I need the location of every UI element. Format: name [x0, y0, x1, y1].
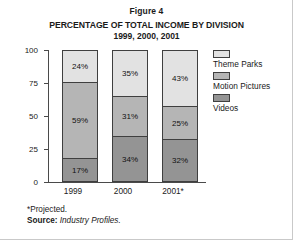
- x-axis-line: [48, 182, 206, 183]
- legend-item-motion-pictures: Motion Pictures: [213, 72, 291, 91]
- y-tick-label-50: 50: [29, 112, 38, 121]
- y-tick-label-25: 25: [29, 145, 38, 154]
- bar-segment-videos: 17%: [62, 158, 98, 182]
- bar-segment-motion-pictures: 31%: [112, 96, 148, 138]
- figure-label: Figure 4: [0, 6, 293, 16]
- x-axis-label-2: 2001*: [148, 186, 198, 196]
- y-tick-label-100: 100: [25, 46, 38, 55]
- source-footnote: Source: Industry Profiles.: [27, 216, 121, 225]
- bar-segment-motion-pictures: 59%: [62, 82, 98, 160]
- bar-group: 24%59%17%35%31%34%43%25%32%: [49, 50, 206, 182]
- x-axis-labels: 1999 2000 2001*: [48, 186, 206, 198]
- bar-segment-theme-parks: 24%: [62, 50, 98, 83]
- y-tick-label-75: 75: [29, 79, 38, 88]
- figure-container: Figure 4 PERCENTAGE OF TOTAL INCOME BY D…: [0, 0, 293, 240]
- bar-segment-theme-parks: 35%: [112, 50, 148, 97]
- legend-swatch-videos: [213, 94, 230, 102]
- legend-label-theme-parks: Theme Parks: [213, 59, 291, 69]
- legend-item-theme-parks: Theme Parks: [213, 50, 291, 69]
- bar-1999: 24%59%17%: [62, 50, 98, 182]
- bar-segment-theme-parks: 43%: [162, 50, 198, 107]
- bar-2001: 43%25%32%: [162, 50, 198, 182]
- y-tick-label-0: 0: [34, 178, 38, 187]
- plot-area: 0255075100 24%59%17%35%31%34%43%25%32%: [48, 50, 206, 182]
- legend-label-motion-pictures: Motion Pictures: [213, 81, 291, 91]
- x-axis-label-1: 2000: [98, 186, 148, 196]
- chart-legend: Theme ParksMotion PicturesVideos: [213, 50, 291, 116]
- x-axis-label-0: 1999: [48, 186, 98, 196]
- legend-swatch-theme-parks: [213, 50, 230, 58]
- source-value: Industry Profiles.: [60, 216, 121, 225]
- chart-title: PERCENTAGE OF TOTAL INCOME BY DIVISION: [0, 20, 293, 30]
- bar-segment-videos: 32%: [162, 139, 198, 182]
- legend-swatch-motion-pictures: [213, 72, 230, 80]
- projected-footnote: *Projected.: [27, 205, 67, 214]
- chart-subtitle: 1999, 2000, 2001: [0, 31, 293, 41]
- bar-2000: 35%31%34%: [112, 50, 148, 182]
- legend-item-videos: Videos: [213, 94, 291, 113]
- bar-segment-videos: 34%: [112, 136, 148, 182]
- legend-label-videos: Videos: [213, 103, 291, 113]
- source-label: Source:: [27, 216, 57, 225]
- bar-segment-motion-pictures: 25%: [162, 106, 198, 140]
